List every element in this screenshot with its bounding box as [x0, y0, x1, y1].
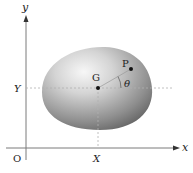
angle-label: θ — [124, 78, 130, 89]
x-axis-label: x — [182, 141, 189, 154]
rigid-body-diagram: y x O X Y G P θ — [0, 0, 193, 173]
y-axis-arrow-icon — [24, 15, 29, 22]
x-axis — [6, 146, 180, 151]
centroid-label: G — [92, 72, 100, 83]
point-p — [129, 67, 133, 71]
x-tick-label: X — [92, 153, 101, 164]
point-p-label: P — [122, 58, 129, 69]
x-axis-arrow-icon — [173, 146, 180, 151]
y-axis-label: y — [21, 1, 29, 14]
y-tick-label: Y — [14, 83, 22, 94]
centroid-point — [96, 86, 100, 90]
origin-label: O — [13, 153, 21, 164]
y-axis — [24, 15, 29, 160]
